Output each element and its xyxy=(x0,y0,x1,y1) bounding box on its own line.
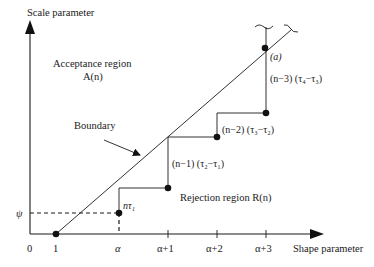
y-tick-psi: ψ xyxy=(16,208,23,219)
point-alpha-plus-1 xyxy=(165,185,172,192)
point-one xyxy=(53,231,60,238)
y-axis-arrow-icon xyxy=(25,20,35,34)
acceptance-region-symbol: A(n) xyxy=(83,71,103,83)
y-axis-label: Scale parameter xyxy=(27,7,95,18)
x-axis xyxy=(30,229,324,239)
point-a xyxy=(262,45,269,52)
origin-label: 0 xyxy=(27,243,32,254)
step-label-4: (n−3) (τ₄−τ₃) xyxy=(270,73,322,85)
step-label-1: nτ₁ xyxy=(123,200,135,211)
x-axis-arrow-icon xyxy=(310,229,324,239)
boundary-label: Boundary xyxy=(74,120,116,131)
point-alpha-plus-2 xyxy=(214,134,221,141)
rejection-staircase xyxy=(119,27,266,213)
y-axis xyxy=(25,20,35,234)
point-a-label: (a) xyxy=(270,51,282,63)
x-tick-1: 1 xyxy=(53,243,58,254)
x-tick-alpha-plus-2: α+2 xyxy=(206,243,223,254)
break-mark-right xyxy=(284,25,298,32)
sequential-test-diagram: Scale parameter Shape parameter 0 1 α α+… xyxy=(0,0,374,267)
x-axis-label: Shape parameter xyxy=(293,243,364,254)
break-mark-left xyxy=(255,25,273,29)
point-alpha xyxy=(116,210,123,217)
x-tick-alpha-plus-3: α+3 xyxy=(255,243,272,254)
x-tick-alpha-plus-1: α+1 xyxy=(157,243,174,254)
point-alpha-plus-3 xyxy=(263,110,270,117)
step-label-3: (n−2) (τ₃−τ₂) xyxy=(222,124,274,136)
boundary-pointer-arrow xyxy=(104,140,140,155)
x-tick-alpha: α xyxy=(115,243,121,254)
rejection-region-label: Rejection region R(n) xyxy=(180,192,272,204)
step-label-2: (n−1) (τ₂−τ₁) xyxy=(172,158,224,170)
acceptance-region-label: Acceptance region xyxy=(53,58,132,69)
